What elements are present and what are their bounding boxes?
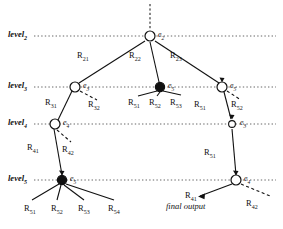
node-label-e4-left: e4 bbox=[63, 118, 69, 129]
edge-label-R22: R22 bbox=[129, 50, 141, 62]
node-label-e3-right: e3 bbox=[240, 118, 246, 129]
figure-canvas: level2 level3 level4 level5 e2 e3 e5 e5 … bbox=[0, 0, 283, 229]
edge-e5bottom-r51 bbox=[32, 184, 59, 200]
edge-e4left-to-e5bottom bbox=[54, 129, 62, 175]
edge-e2-to-e5right bbox=[155, 41, 219, 83]
edge-label-R31: R31 bbox=[45, 97, 57, 109]
edge-e5bottom-r53 bbox=[64, 185, 84, 200]
edge-label-R41: R41 bbox=[27, 142, 39, 154]
node-label-e4-bottom: e4 bbox=[244, 174, 250, 185]
edge-label-R51-vertical: R51 bbox=[204, 147, 216, 159]
edge-label-R51-right: R51 bbox=[194, 99, 206, 111]
node-e5-mid[interactable] bbox=[155, 82, 164, 91]
edge-e5mid-r53 bbox=[163, 91, 181, 95]
node-e4-left[interactable] bbox=[50, 119, 60, 129]
level-label-level2: level2 bbox=[8, 29, 27, 41]
level-label-level3: level3 bbox=[8, 80, 27, 92]
node-label-e5-bottom: e5 bbox=[70, 174, 76, 185]
edge-label-R42: R42 bbox=[62, 144, 74, 156]
edge-e3left-to-e4left bbox=[58, 91, 72, 120]
node-e3-right[interactable] bbox=[229, 121, 236, 128]
node-e5-bottom[interactable] bbox=[57, 175, 66, 184]
edge-label-R23: R23 bbox=[170, 50, 182, 62]
edge-label-R51-mid: R51 bbox=[128, 97, 140, 109]
edge-label-R53-mid: R53 bbox=[170, 97, 182, 109]
level-label-level4: level4 bbox=[8, 117, 27, 129]
node-label-e5-right: e5 bbox=[230, 81, 236, 92]
node-label-e3-left: e3 bbox=[83, 81, 89, 92]
edge-e2-to-e3left bbox=[79, 41, 145, 83]
edge-label-R41-final: R41 bbox=[185, 190, 197, 202]
node-e5-right[interactable] bbox=[217, 82, 227, 92]
edge-label-R21: R21 bbox=[77, 50, 89, 62]
edge-label-R53-bottom: R53 bbox=[78, 203, 90, 215]
edge-label-R54-bottom: R54 bbox=[108, 203, 120, 215]
node-label-e5-mid: e5 bbox=[168, 81, 174, 92]
node-e2[interactable] bbox=[145, 31, 155, 41]
edge-e5mid-r52 bbox=[157, 92, 160, 96]
edge-arrowhead-e5bottom bbox=[59, 171, 65, 176]
final-output-arrowhead bbox=[198, 194, 205, 200]
edge-label-R52-mid: R52 bbox=[149, 97, 161, 109]
level-label-level5: level5 bbox=[8, 173, 27, 185]
edge-label-R52-bottom: R52 bbox=[51, 203, 63, 215]
node-label-e2: e2 bbox=[158, 30, 164, 41]
edge-label-R42-final: R42 bbox=[246, 198, 258, 210]
diagram-svg bbox=[0, 0, 283, 229]
edge-label-R51-bottom: R51 bbox=[24, 203, 36, 215]
edge-label-R52-right: R52 bbox=[231, 99, 243, 111]
edge-e3right-to-e4bottom bbox=[232, 129, 236, 175]
edge-e5bottom-r52 bbox=[57, 185, 61, 200]
edge-arrowhead-e3right bbox=[229, 115, 235, 120]
edge-e2-to-e5mid bbox=[150, 42, 159, 82]
node-e3-left[interactable] bbox=[70, 82, 80, 92]
final-output-label: final output bbox=[166, 201, 205, 211]
edge-dashed-R42final bbox=[241, 184, 270, 196]
edge-e5mid-r51 bbox=[138, 91, 157, 96]
edge-dashed-R42 bbox=[57, 130, 71, 142]
edge-label-R32: R32 bbox=[88, 99, 100, 111]
node-e4-bottom[interactable] bbox=[231, 175, 241, 185]
